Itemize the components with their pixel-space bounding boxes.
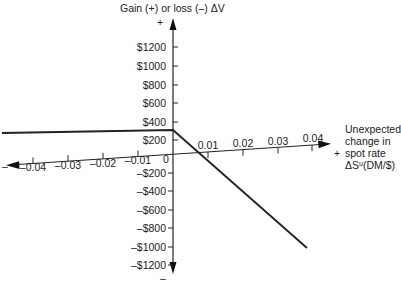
x-tick-label: –0.01 xyxy=(125,154,151,166)
y-axis-up-arrow-icon xyxy=(170,18,177,30)
x-plus-sign: + xyxy=(334,147,340,159)
x-minus-sign: – xyxy=(2,160,8,172)
x-tick-label: –0.02 xyxy=(90,157,116,169)
x-tick-label: 0.04 xyxy=(303,132,324,144)
x-axis-title-line: Unexpected xyxy=(345,123,401,135)
y-plus-sign: + xyxy=(157,16,163,28)
x-tick-label: –0.03 xyxy=(55,159,81,171)
x-axis-left-arrow-icon xyxy=(6,161,20,169)
y-tick-label: –$800 xyxy=(137,222,166,234)
x-axis-title-line: change in xyxy=(345,135,391,147)
y-tick-label: –$200 xyxy=(137,167,166,179)
y-axis-down-arrow-icon xyxy=(170,262,177,274)
x-tick-label: 0.03 xyxy=(268,135,289,147)
y-tick-label: –$1200 xyxy=(131,259,166,271)
y-tick-label: $1200 xyxy=(137,41,166,53)
y-tick-label: –$600 xyxy=(137,204,166,216)
y-tick-label: $200 xyxy=(143,134,167,146)
y-axis-title: Gain (+) or loss (–) ΔV xyxy=(120,2,225,14)
y-tick-label: $600 xyxy=(143,97,167,109)
y-tick-label: –$400 xyxy=(137,185,166,197)
y-tick-label: $1000 xyxy=(137,60,166,72)
x-origin-label: 0 xyxy=(163,153,169,165)
x-axis-title-line: ΔSᵘ(DM/$) xyxy=(345,159,395,171)
x-axis-title-line: spot rate xyxy=(345,147,386,159)
x-tick-label: –0.04 xyxy=(20,161,46,173)
y-tick-label: $400 xyxy=(143,116,167,128)
y-tick-label: –$1000 xyxy=(131,241,166,253)
x-tick-label: 0.01 xyxy=(198,139,219,151)
y-minus-sign: – xyxy=(160,272,166,282)
x-tick-label: 0.02 xyxy=(233,137,254,149)
y-tick-label: $800 xyxy=(143,79,167,91)
chart-canvas: Gain (+) or loss (–) ΔV + – $1200 $1000 … xyxy=(0,0,401,282)
